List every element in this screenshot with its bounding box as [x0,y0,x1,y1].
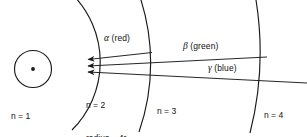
transition-line-beta [88,57,267,66]
shell-n1-quantum-number: n = 1 [11,111,41,122]
alpha-color-label: (red) [112,33,130,43]
shell-n2-quantum-number: n = 2 [86,100,126,111]
shell-arc-n3 [139,0,151,132]
transition-line-alpha [88,53,152,60]
shell-n2-radius: radius = 4r [86,133,126,137]
diagram-canvas [0,0,307,137]
gamma-color-label: (blue) [214,63,236,73]
transition-label-gamma: γ (blue) [208,63,237,74]
transition-label-beta: β (green) [183,41,218,52]
shell-n3-quantum-number: n = 3 [157,106,197,117]
shell-n4-quantum-number: n = 4 [264,110,283,121]
shell-label-n1: n = 1 r = 0.5A [11,89,41,137]
shell-label-n2: n = 2 radius = 4r [86,78,126,137]
nucleus-dot [31,67,35,71]
bohr-model-diagram: α (red) β (green) γ (blue) n = 1 r = 0.5… [0,0,307,137]
shell-label-n4: n = 4 etc. [264,88,283,137]
transition-label-alpha: α (red) [104,33,130,44]
gamma-glyph: γ [208,63,212,73]
shell-label-n3: n = 3 radius = 9r [157,84,197,137]
beta-color-label: (green) [190,41,218,51]
shell-arc-n4 [250,0,260,133]
beta-glyph: β [183,41,188,51]
alpha-glyph: α [104,33,109,43]
